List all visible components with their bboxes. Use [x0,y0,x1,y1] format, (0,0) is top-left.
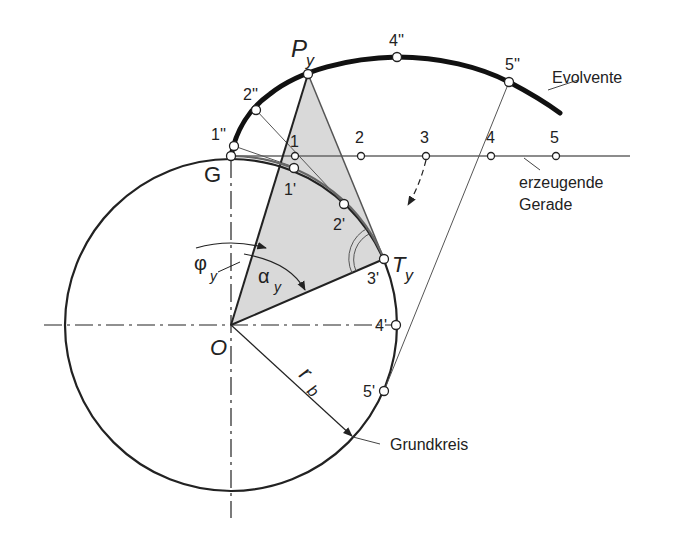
label-gerade: Gerade [519,196,572,213]
label-evolvente: Evolvente [552,69,622,86]
label-inv-2: 2'' [243,86,258,103]
dashed-arrow [408,160,426,205]
label-phi-sub: y [209,268,218,284]
label-pt-3: 3 [420,129,429,146]
label-O: O [210,335,227,360]
label-pt-5: 5 [550,129,559,146]
label-circle-1: 1' [284,181,296,198]
label-circle-3: 3' [367,270,379,287]
label-alpha: α [258,265,270,287]
label-inv-5: 5'' [505,56,520,73]
label-circle-5: 5' [363,383,375,400]
label-inv-1: 1'' [211,126,226,143]
label-circle-2: 2' [333,216,345,233]
radius-rb [231,325,352,436]
label-phi: φ [194,252,207,274]
label-erzeugende: erzeugende [519,174,604,191]
label-circle-4: 4' [375,317,387,334]
label-rb-sub: b [304,382,322,401]
label-grundkreis: Grundkreis [390,436,468,453]
label-P-sub: y [305,52,315,69]
label-G: G [204,162,221,187]
leader-gerade [524,158,540,170]
phi-leader [218,262,240,272]
label-pt-4: 4 [486,129,495,146]
label-alpha-sub: y [273,279,282,295]
diagram-svg: Evolvente erzeugende Gerade Grundkreis G… [0,0,676,542]
label-pt-2: 2 [355,129,364,146]
leader-grundkreis [353,437,380,444]
label-T-sub: y [404,267,414,284]
label-pt-1: 1 [290,133,299,150]
involute-diagram: Evolvente erzeugende Gerade Grundkreis G… [0,0,676,542]
label-inv-4: 4'' [389,32,404,49]
label-P: P [291,35,307,62]
